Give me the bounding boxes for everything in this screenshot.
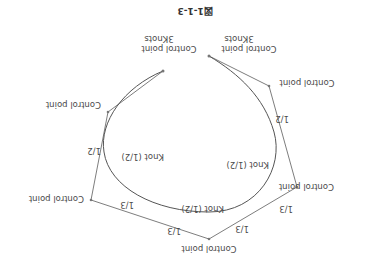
label-third: 1/3 xyxy=(120,200,134,210)
control-point xyxy=(268,85,271,88)
bspline-diagram: 図1-1-3 Control point 3Knots Control poin… xyxy=(0,0,389,272)
label-third: 1/3 xyxy=(167,226,181,236)
label-cp: Control point xyxy=(278,182,334,192)
label-knot: Knot (1/2) xyxy=(226,160,269,170)
label-cp-end-knots: 3Knots xyxy=(144,34,174,44)
label-cp: Control point xyxy=(45,100,101,110)
figure-title: 図1-1-3 xyxy=(177,6,212,16)
label-half: 1/2 xyxy=(87,146,101,156)
control-point-end xyxy=(162,70,165,73)
control-point xyxy=(208,238,211,241)
label-third: 1/3 xyxy=(279,204,293,214)
label-cp-start-knots: 3Knots xyxy=(224,34,254,44)
bspline-curve xyxy=(103,56,276,212)
control-point-start xyxy=(208,55,211,58)
label-cp: Control point xyxy=(181,244,237,254)
figure: 図1-1-3 Control point 3Knots Control poin… xyxy=(0,0,389,272)
label-cp: Control point xyxy=(279,78,335,88)
label-knot: Knot (1/2) xyxy=(181,204,224,214)
label-cp-start: Control point xyxy=(221,44,277,54)
control-point xyxy=(107,111,110,114)
label-third: 1/3 xyxy=(235,224,249,234)
label-knot: Knot (1/2) xyxy=(121,152,164,162)
label-cp-end: Control point xyxy=(141,44,197,54)
label-half: 1/2 xyxy=(275,114,289,124)
control-point xyxy=(90,199,93,202)
label-cp: Control point xyxy=(28,194,84,204)
